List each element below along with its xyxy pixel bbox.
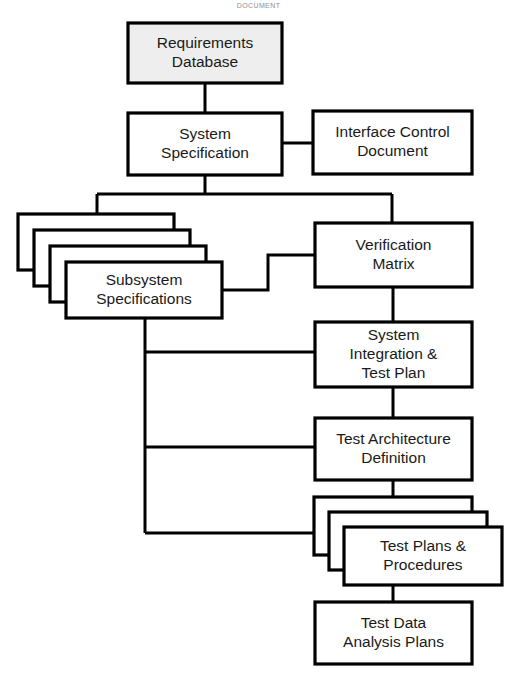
flowchart-canvas: RequirementsDatabaseSystemSpecificationI… — [0, 0, 517, 683]
node-test-data-analysis-plans-label-line-1: Test Data — [361, 614, 427, 631]
node-requirements-database[interactable]: RequirementsDatabase — [128, 23, 282, 83]
node-test-architecture-definition-label-line-2: Definition — [361, 449, 426, 466]
node-interface-control-document-label-line-1: Interface Control — [335, 123, 450, 140]
node-requirements-database-label-line-1: Requirements — [157, 34, 254, 51]
node-test-plans-procedures-label-line-1: Test Plans & — [380, 537, 467, 554]
node-system-integration-test-plan-label-line-3: Test Plan — [362, 364, 426, 381]
node-subsystem-specifications[interactable]: SubsystemSpecifications — [18, 214, 222, 318]
node-system-specification-label-line-1: System — [179, 125, 231, 142]
connector-subsystem-to-verification-step — [222, 255, 315, 290]
node-test-data-analysis-plans-label-line-2: Analysis Plans — [343, 633, 444, 650]
node-system-integration-test-plan[interactable]: SystemIntegration &Test Plan — [315, 322, 472, 387]
node-system-integration-test-plan-label-line-2: Integration & — [350, 345, 439, 362]
node-interface-control-document[interactable]: Interface ControlDocument — [313, 111, 472, 174]
node-interface-control-document-label-line-2: Document — [357, 142, 428, 159]
node-verification-matrix-label-line-2: Matrix — [372, 255, 414, 272]
node-subsystem-specifications-label-line-1: Subsystem — [106, 271, 183, 288]
node-test-architecture-definition[interactable]: Test ArchitectureDefinition — [315, 418, 472, 480]
node-test-plans-procedures-label-line-2: Procedures — [383, 556, 463, 573]
node-test-plans-procedures[interactable]: Test Plans &Procedures — [314, 497, 502, 585]
node-verification-matrix[interactable]: VerificationMatrix — [315, 223, 472, 287]
diagram-root: DOCUMENT RequirementsDatabaseSystemSpeci… — [0, 0, 517, 683]
node-test-data-analysis-plans[interactable]: Test DataAnalysis Plans — [315, 602, 472, 664]
node-requirements-database-label-line-2: Database — [172, 53, 238, 70]
node-verification-matrix-label-line-1: Verification — [356, 236, 432, 253]
node-subsystem-specifications-label-line-2: Specifications — [96, 290, 192, 307]
node-test-architecture-definition-label-line-1: Test Architecture — [336, 430, 451, 447]
node-system-specification[interactable]: SystemSpecification — [128, 113, 282, 175]
node-system-integration-test-plan-label-line-1: System — [368, 326, 420, 343]
nodes-layer: RequirementsDatabaseSystemSpecificationI… — [18, 23, 502, 664]
node-system-specification-label-line-2: Specification — [161, 144, 249, 161]
